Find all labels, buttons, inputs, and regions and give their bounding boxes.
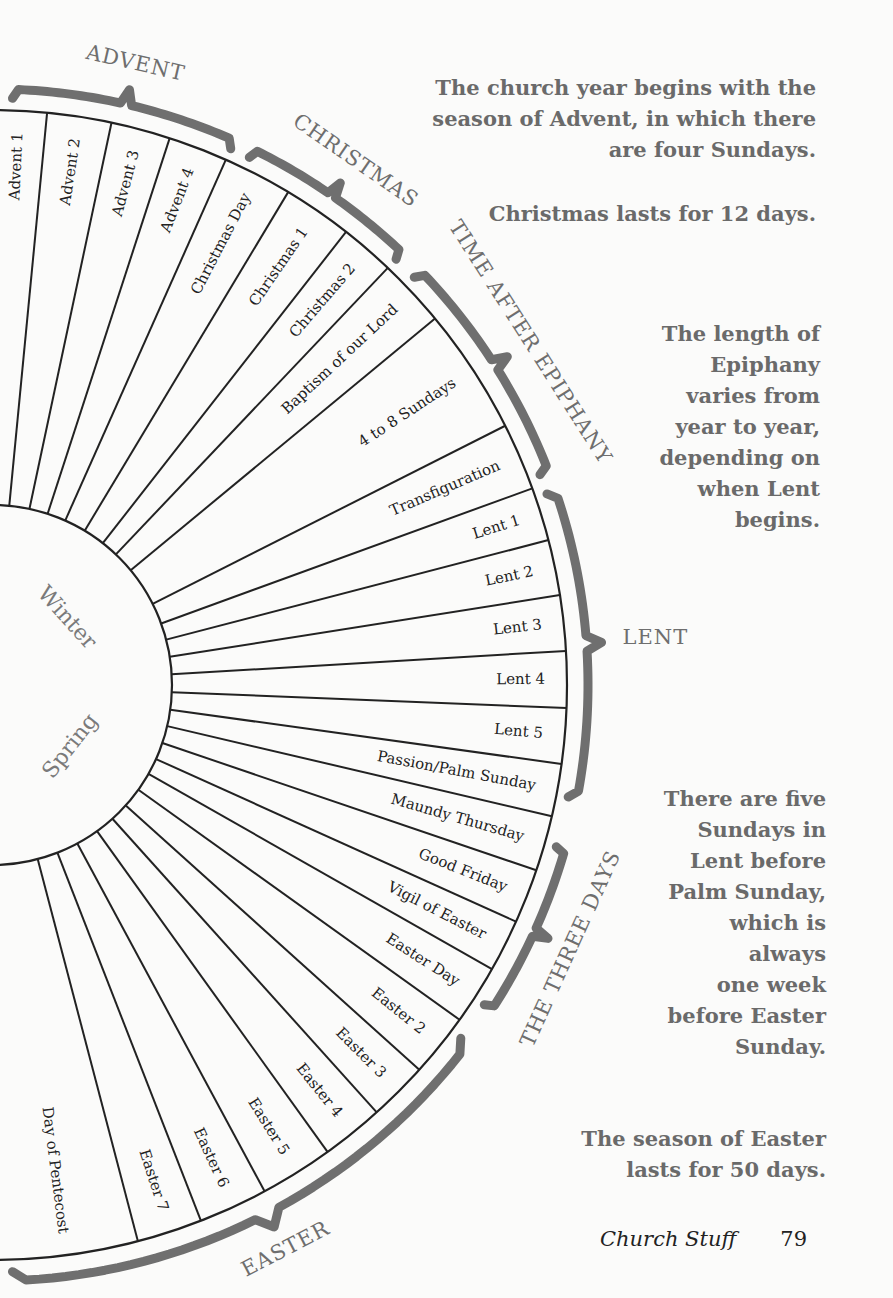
note-line: Epiphany: [600, 349, 820, 380]
segment-divider: [161, 488, 532, 623]
quarter-labels: WinterSpring: [33, 581, 103, 783]
segment-label: Maundy Thursday: [389, 790, 527, 845]
quarter-label-spring: Spring: [37, 708, 103, 782]
quarter-label-winter: Winter: [33, 581, 103, 654]
segment-divider: [162, 743, 536, 870]
inner-circle: [0, 505, 172, 865]
segment-label: Passion/Palm Sunday: [376, 747, 538, 794]
segment-label: Lent 1: [470, 511, 522, 543]
note-line: Christmas lasts for 12 days.: [430, 198, 816, 229]
segment-divider: [77, 843, 264, 1191]
book-title: Church Stuff: [600, 1227, 736, 1251]
segment-label: Advent 3: [108, 148, 143, 219]
note-line: which is: [620, 907, 826, 938]
page-number: 79: [780, 1227, 807, 1251]
note-christmas: Christmas lasts for 12 days.: [430, 198, 816, 229]
season-label: THE THREE DAYS: [515, 847, 625, 1051]
note-advent: The church year begins with the season o…: [380, 72, 816, 165]
note-line: depending on: [600, 442, 820, 473]
segment-label: Advent 4: [156, 165, 197, 236]
brace-icon: [12, 1038, 460, 1280]
segment-divider: [57, 853, 200, 1221]
note-line: The church year begins with the: [380, 72, 816, 103]
segment-labels: Advent 1Advent 2Advent 3Advent 4Christma…: [5, 132, 545, 1234]
note-line: always: [620, 938, 826, 969]
segment-label: Day of Pentecost: [38, 1106, 72, 1235]
brace-icon: [414, 275, 546, 474]
note-line: Palm Sunday,: [620, 876, 826, 907]
segment-label: Lent 3: [492, 615, 543, 638]
note-line: season of Advent, in which there: [380, 103, 816, 134]
season-lent: LENT: [547, 494, 688, 797]
segment-label: Easter Day: [383, 929, 464, 990]
segment-divider: [97, 831, 327, 1152]
note-lent: There are five Sundays in Lent before Pa…: [620, 783, 826, 1062]
note-epiphany: The length of Epiphany varies from year …: [600, 318, 820, 535]
segment-label: Christmas 1: [245, 224, 312, 310]
segment-label: Lent 4: [496, 670, 545, 688]
note-line: begins.: [600, 504, 820, 535]
note-easter: The season of Easter lasts for 50 days.: [540, 1123, 826, 1185]
segment-label: Lent 2: [483, 562, 534, 590]
segment-label: Christmas 2: [285, 260, 359, 341]
season-easter: EASTER: [12, 1038, 460, 1281]
segment-label: 4 to 8 Sundays: [355, 374, 459, 451]
note-line: varies from: [600, 380, 820, 411]
note-line: The season of Easter: [540, 1123, 826, 1154]
season-time-after-epiphany: TIME AFTER EPIPHANY: [414, 216, 617, 475]
season-label: ADVENT: [83, 40, 187, 86]
season-label: LENT: [623, 625, 689, 649]
note-line: Sundays in: [620, 814, 826, 845]
segment-label: Easter 6: [190, 1125, 233, 1191]
note-line: are four Sundays.: [380, 134, 816, 165]
brace-icon: [547, 494, 601, 797]
note-line: Sunday.: [620, 1031, 826, 1062]
church-year-wheel: Advent 1Advent 2Advent 3Advent 4Christma…: [0, 0, 893, 1298]
segment-label: Christmas Day: [187, 189, 255, 297]
segment-label: Easter 7: [136, 1147, 173, 1213]
segment-label: Transfiguration: [387, 456, 503, 520]
segment-divider: [153, 426, 506, 604]
segment-label: Lent 5: [493, 720, 543, 742]
segment-label: Good Friday: [416, 844, 510, 895]
note-line: Lent before: [620, 845, 826, 876]
page-footer: Church Stuff79: [600, 1227, 807, 1251]
segment-label: Advent 1: [5, 132, 26, 202]
segment-label: Advent 2: [56, 137, 84, 208]
segment-divider: [131, 318, 435, 570]
note-line: one week: [620, 969, 826, 1000]
note-line: year to year,: [600, 411, 820, 442]
segment-label: Easter 5: [244, 1094, 293, 1158]
segment-divider: [112, 819, 376, 1113]
note-line: The length of: [600, 318, 820, 349]
note-line: when Lent: [600, 473, 820, 504]
segment-divider: [166, 540, 548, 640]
note-line: lasts for 50 days.: [540, 1154, 826, 1185]
note-line: There are five: [620, 783, 826, 814]
segment-divider: [172, 692, 567, 708]
note-line: before Easter: [620, 1000, 826, 1031]
